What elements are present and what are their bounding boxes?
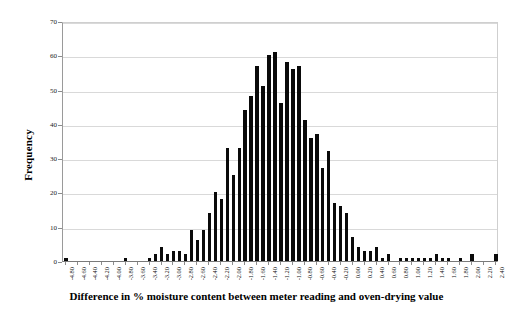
x-tick-label: -1.80 bbox=[247, 267, 254, 280]
x-tick-label: -0.20 bbox=[342, 267, 349, 280]
x-tick-mark bbox=[388, 262, 389, 265]
histogram-bar bbox=[166, 254, 169, 261]
histogram-bar bbox=[333, 203, 336, 261]
histogram-bar bbox=[429, 258, 432, 261]
x-tick-mark bbox=[196, 262, 197, 265]
histogram-bar bbox=[232, 175, 235, 261]
x-tick-label: 0.00 bbox=[354, 267, 361, 278]
histogram-bar bbox=[291, 69, 294, 261]
histogram-bar bbox=[399, 258, 402, 261]
x-tick-mark bbox=[77, 262, 78, 265]
y-tick-label: 50 bbox=[29, 87, 57, 95]
histogram-bar bbox=[172, 251, 175, 261]
x-tick-mark bbox=[232, 262, 233, 265]
x-tick-label: -2.00 bbox=[235, 267, 242, 280]
histogram-bar bbox=[249, 96, 252, 261]
x-tick-label: 2.00 bbox=[474, 267, 481, 278]
x-tick-mark bbox=[328, 262, 329, 265]
x-tick-mark bbox=[220, 262, 221, 265]
x-tick-mark bbox=[172, 262, 173, 265]
x-tick-label: -4.40 bbox=[91, 267, 98, 280]
x-tick-mark bbox=[268, 262, 269, 265]
x-tick-label: 2.40 bbox=[498, 267, 505, 278]
x-tick-mark bbox=[352, 262, 353, 265]
y-tick-label: 40 bbox=[29, 121, 57, 129]
histogram-figure: Frequency 010203040506070 -4.80-4.60-4.4… bbox=[0, 0, 513, 310]
x-tick-mark bbox=[137, 262, 138, 265]
histogram-bar bbox=[423, 258, 426, 261]
x-tick-label: -2.20 bbox=[223, 267, 230, 280]
x-tick-label: -2.80 bbox=[187, 267, 194, 280]
x-tick-mark bbox=[125, 262, 126, 265]
histogram-bar bbox=[220, 199, 223, 261]
histogram-bar bbox=[381, 258, 384, 261]
x-tick-mark bbox=[364, 262, 365, 265]
x-tick-mark bbox=[244, 262, 245, 265]
x-tick-mark bbox=[447, 262, 448, 265]
x-tick-mark bbox=[256, 262, 257, 265]
histogram-bar bbox=[273, 52, 276, 261]
x-tick-label: -1.40 bbox=[271, 267, 278, 280]
x-tick-mark bbox=[208, 262, 209, 265]
x-tick-label: 1.80 bbox=[462, 267, 469, 278]
histogram-bar bbox=[202, 230, 205, 261]
histogram-bar bbox=[196, 240, 199, 261]
x-tick-label: -4.80 bbox=[68, 267, 75, 280]
histogram-bar bbox=[64, 258, 67, 261]
x-tick-mark bbox=[101, 262, 102, 265]
histogram-bar bbox=[417, 258, 420, 261]
histogram-bar bbox=[243, 110, 246, 261]
histogram-bar bbox=[214, 192, 217, 261]
histogram-bar bbox=[494, 254, 497, 261]
histogram-bar bbox=[160, 247, 163, 261]
x-tick-mark bbox=[184, 262, 185, 265]
histogram-bar bbox=[447, 258, 450, 261]
x-tick-mark bbox=[292, 262, 293, 265]
x-tick-label: 1.00 bbox=[414, 267, 421, 278]
x-tick-label: -3.80 bbox=[127, 267, 134, 280]
x-tick-mark bbox=[471, 262, 472, 265]
histogram-bar bbox=[327, 151, 330, 261]
histogram-bar bbox=[190, 230, 193, 261]
x-tick-mark bbox=[459, 262, 460, 265]
x-axis-title: Difference in % moisture content between… bbox=[0, 290, 513, 302]
histogram-bar bbox=[303, 120, 306, 261]
histogram-bar bbox=[226, 148, 229, 261]
x-tick-mark bbox=[376, 262, 377, 265]
x-tick-mark bbox=[149, 262, 150, 265]
histogram-bar bbox=[339, 206, 342, 261]
plot-area bbox=[62, 22, 498, 262]
x-tick-mark bbox=[340, 262, 341, 265]
x-tick-label: -3.60 bbox=[139, 267, 146, 280]
histogram-bar bbox=[178, 251, 181, 261]
x-tick-label: -3.00 bbox=[175, 267, 182, 280]
x-tick-label: -0.80 bbox=[306, 267, 313, 280]
x-tick-label: -1.60 bbox=[259, 267, 266, 280]
histogram-bar bbox=[279, 103, 282, 261]
x-tick-label: 0.80 bbox=[402, 267, 409, 278]
histogram-bar bbox=[387, 254, 390, 261]
x-tick-label: 0.40 bbox=[378, 267, 385, 278]
histogram-bar bbox=[315, 134, 318, 261]
histogram-bar bbox=[351, 237, 354, 261]
histogram-bar bbox=[411, 258, 414, 261]
histogram-bar bbox=[375, 247, 378, 261]
histogram-bar bbox=[184, 254, 187, 261]
y-tick-label: 10 bbox=[29, 224, 57, 232]
y-tick-label: 0 bbox=[29, 258, 57, 266]
histogram-bar bbox=[357, 247, 360, 261]
x-tick-label: -4.60 bbox=[80, 267, 87, 280]
histogram-bar bbox=[208, 213, 211, 261]
x-tick-label: 0.60 bbox=[390, 267, 397, 278]
x-tick-mark bbox=[280, 262, 281, 265]
x-tick-label: -0.40 bbox=[330, 267, 337, 280]
y-tick-label: 60 bbox=[29, 52, 57, 60]
x-tick-label: -1.20 bbox=[283, 267, 290, 280]
x-tick-label: 1.40 bbox=[438, 267, 445, 278]
x-tick-mark bbox=[113, 262, 114, 265]
histogram-bar bbox=[405, 258, 408, 261]
histogram-bar bbox=[369, 251, 372, 261]
histogram-bar bbox=[309, 138, 312, 261]
histogram-bar bbox=[238, 148, 241, 261]
histogram-bar bbox=[435, 254, 438, 261]
